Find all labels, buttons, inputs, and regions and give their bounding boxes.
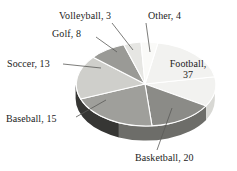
pie-label-volleyball: Volleyball, 3 <box>59 10 111 21</box>
pie-label-golf: Golf, 8 <box>52 28 81 39</box>
pie-label-football-line1: Football, <box>170 58 207 69</box>
pie-label-other: Other, 4 <box>148 10 181 21</box>
pie-chart-graphic <box>0 0 237 171</box>
pie-label-soccer: Soccer, 13 <box>7 58 50 69</box>
pie-label-basketball: Basketball, 20 <box>135 152 194 163</box>
pie-slices <box>76 42 216 126</box>
pie-label-baseball: Baseball, 15 <box>6 113 57 124</box>
pie-label-football-line2: 37 <box>183 69 193 80</box>
pie-label-football: Football, 37 <box>160 58 216 80</box>
pie-chart-figure: Volleyball, 3 Other, 4 Golf, 8 Soccer, 1… <box>0 0 237 171</box>
